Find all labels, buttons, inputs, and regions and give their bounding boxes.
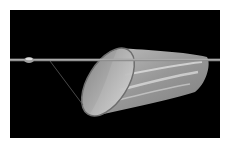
net-illustration (10, 10, 220, 138)
photo (10, 10, 220, 138)
net-string (50, 61, 83, 105)
